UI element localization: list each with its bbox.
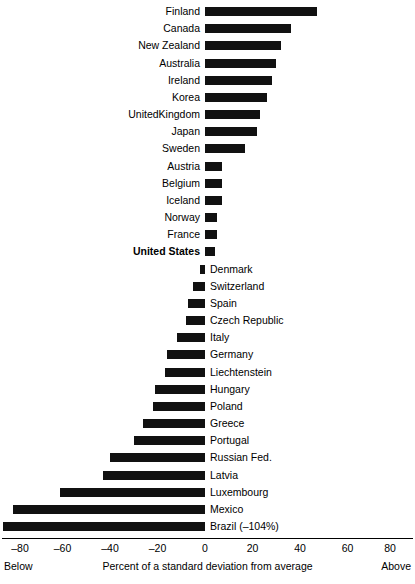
bar-row: Austria: [0, 159, 415, 176]
bar-row: Norway: [0, 210, 415, 227]
bar: [205, 7, 317, 16]
bar: [167, 350, 205, 359]
bar-row: Canada: [0, 21, 415, 38]
x-tick-label: –40: [90, 541, 130, 555]
bar-label: Norway: [0, 210, 200, 225]
bar-row: France: [0, 227, 415, 244]
x-axis-title: Percent of a standard deviation from ave…: [0, 559, 415, 573]
bar-row: Portugal: [0, 433, 415, 450]
bar-row: Korea: [0, 90, 415, 107]
bar-label: Liechtenstein: [210, 365, 415, 380]
bar-row: Czech Republic: [0, 313, 415, 330]
bar-label: Czech Republic: [210, 313, 415, 328]
bar-row: Ireland: [0, 73, 415, 90]
bar-label: Ireland: [0, 73, 200, 88]
bar: [153, 402, 205, 411]
bar: [205, 247, 215, 256]
bar-row: Spain: [0, 296, 415, 313]
bar: [205, 76, 272, 85]
bar-label: Brazil (–104%): [210, 519, 415, 534]
x-tick-label: –60: [43, 541, 83, 555]
bar: [13, 505, 205, 514]
bar: [186, 316, 205, 325]
bar-row: Latvia: [0, 468, 415, 485]
bar-label: Australia: [0, 56, 200, 71]
x-tick-label: 60: [328, 541, 368, 555]
bar: [205, 41, 281, 50]
bar-label: Mexico: [210, 502, 415, 517]
bar: [155, 385, 205, 394]
bar-label: Poland: [210, 399, 415, 414]
bar: [205, 110, 260, 119]
bar-label: Latvia: [210, 468, 415, 483]
bar: [200, 265, 205, 274]
bar-row: UnitedKingdom: [0, 107, 415, 124]
x-tick-label: –20: [138, 541, 178, 555]
bar-label: Russian Fed.: [210, 450, 415, 465]
bar: [165, 368, 205, 377]
bar: [205, 179, 222, 188]
bar-label: Greece: [210, 416, 415, 431]
bar: [143, 419, 205, 428]
bar: [205, 127, 257, 136]
bar-label: Portugal: [210, 433, 415, 448]
bar-row: New Zealand: [0, 38, 415, 55]
bar-row: Russian Fed.: [0, 450, 415, 467]
axis-end-label-above: Above: [381, 559, 411, 573]
bar-row: Mexico: [0, 502, 415, 519]
bar: [205, 144, 245, 153]
bar: [205, 93, 267, 102]
bar-label: Canada: [0, 21, 200, 36]
bar-row: Japan: [0, 124, 415, 141]
bar-label: Belgium: [0, 176, 200, 191]
x-tick-label: 20: [233, 541, 273, 555]
bar: [205, 213, 217, 222]
bar: [193, 282, 205, 291]
bar-label: Iceland: [0, 193, 200, 208]
axis-end-label-below: Below: [4, 559, 33, 573]
bar-label: United States: [0, 244, 200, 259]
bar: [188, 299, 205, 308]
bar: [177, 333, 206, 342]
bar: [110, 453, 205, 462]
bar-row: Iceland: [0, 193, 415, 210]
bar-label: Italy: [210, 330, 415, 345]
bar-label: Switzerland: [210, 279, 415, 294]
x-tick-label: 0: [185, 541, 225, 555]
bar: [205, 162, 222, 171]
bar: [205, 230, 217, 239]
bar-label: Sweden: [0, 141, 200, 156]
bar-label: UnitedKingdom: [0, 107, 200, 122]
bar-row: Liechtenstein: [0, 365, 415, 382]
bar-label: New Zealand: [0, 38, 200, 53]
bar: [205, 59, 276, 68]
bar: [134, 436, 205, 445]
bar-label: Spain: [210, 296, 415, 311]
bar-row: Finland: [0, 4, 415, 21]
bar-row: Brazil (–104%): [0, 519, 415, 536]
bar-label: Japan: [0, 124, 200, 139]
plot-area: FinlandCanadaNew ZealandAustraliaIreland…: [0, 0, 415, 536]
bar-row: Sweden: [0, 141, 415, 158]
bar: [3, 522, 205, 531]
bar-label: France: [0, 227, 200, 242]
x-tick-label: –80: [0, 541, 40, 555]
bar-label: Hungary: [210, 382, 415, 397]
bar-label: Finland: [0, 4, 200, 19]
bar-row: Greece: [0, 416, 415, 433]
bar-row: Belgium: [0, 176, 415, 193]
bar-row: Switzerland: [0, 279, 415, 296]
bar-label: Denmark: [210, 262, 415, 277]
bar-label: Korea: [0, 90, 200, 105]
bar-row: Poland: [0, 399, 415, 416]
bar-row: Denmark: [0, 262, 415, 279]
bar: [103, 471, 205, 480]
bar-row: United States: [0, 244, 415, 261]
x-tick-label: 40: [280, 541, 320, 555]
x-tick-label: 80: [370, 541, 410, 555]
bar-row: Italy: [0, 330, 415, 347]
bar: [205, 196, 222, 205]
bar-row: Hungary: [0, 382, 415, 399]
bar-row: Luxembourg: [0, 485, 415, 502]
x-axis-line: [2, 538, 413, 539]
